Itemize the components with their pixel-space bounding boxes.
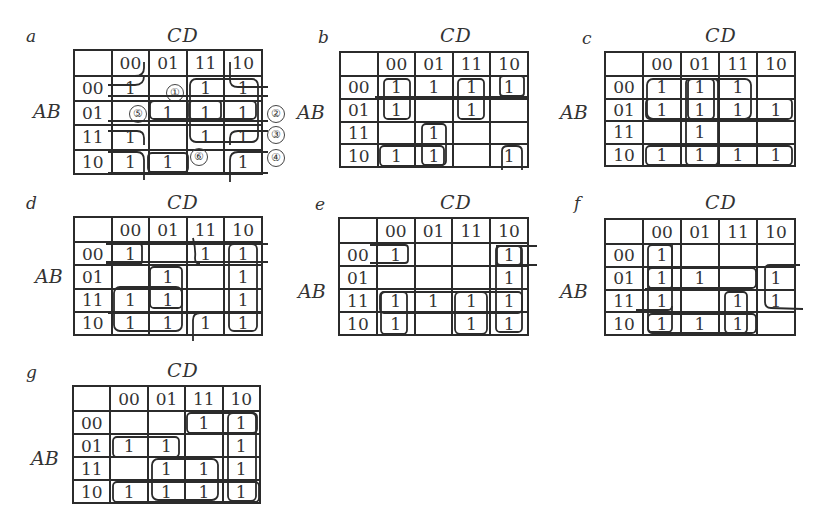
cell (452, 243, 490, 266)
cell: 1 (148, 457, 185, 480)
column-header: 10 (490, 52, 528, 76)
row-header: 00 (605, 244, 643, 267)
corner-cell (339, 218, 377, 243)
cell: 1 (681, 144, 719, 167)
cell: 1 (185, 480, 222, 503)
cell: 1 (224, 101, 262, 126)
cell: 1 (224, 242, 262, 265)
cell (187, 265, 225, 288)
cell: 1 (415, 289, 453, 312)
circled-marker: ⑤ (129, 105, 147, 123)
cell: 1 (112, 125, 150, 150)
cell (110, 411, 147, 434)
cell (757, 312, 795, 335)
cell (185, 434, 222, 457)
row-variable-label: AB (298, 280, 326, 302)
column-variable-label: CD (167, 359, 199, 381)
cell (490, 122, 528, 145)
row-variable-label: AB (297, 101, 325, 123)
column-variable-label: CD (440, 24, 472, 46)
cell (453, 122, 491, 145)
cell: 1 (490, 289, 528, 312)
column-header: 00 (110, 386, 147, 411)
cell (757, 244, 795, 267)
cell: 1 (490, 243, 528, 266)
column-header: 11 (453, 52, 491, 76)
cell: 1 (681, 267, 719, 290)
cell: 1 (223, 411, 260, 434)
column-header: 00 (643, 219, 681, 244)
circled-marker: ② (267, 105, 285, 123)
kmap-grid: 00 01 11 10 00 1 1 1 01 1 1 1 11 1 1 1 1… (73, 49, 263, 175)
cell (490, 99, 528, 122)
cell: 1 (490, 312, 528, 335)
column-header: 10 (224, 50, 262, 76)
column-header: 00 (377, 218, 415, 243)
cell: 1 (719, 144, 757, 167)
cell: 1 (377, 312, 415, 335)
column-header: 00 (112, 217, 150, 242)
panel-label: f (574, 193, 580, 213)
panel-label: d (26, 193, 37, 213)
cell (681, 244, 719, 267)
column-variable-label: CD (705, 191, 737, 213)
cell (719, 267, 757, 290)
cell: 1 (224, 76, 262, 101)
column-header: 01 (415, 218, 453, 243)
circled-marker: ① (166, 84, 184, 102)
cell: 1 (149, 312, 187, 335)
cell: 1 (643, 312, 681, 335)
row-header: 01 (74, 265, 112, 288)
row-variable-label: AB (35, 265, 63, 287)
cell: 1 (223, 457, 260, 480)
column-variable-label: CD (705, 24, 737, 46)
cell (187, 289, 225, 312)
cell: 1 (112, 76, 150, 101)
cell: 1 (112, 242, 150, 265)
column-header: 01 (681, 219, 719, 244)
column-header: 01 (415, 52, 453, 76)
row-header: 00 (340, 76, 378, 99)
cell: 1 (490, 144, 528, 167)
cell: 1 (223, 434, 260, 457)
cell: 1 (757, 99, 795, 122)
cell: 1 (643, 267, 681, 290)
circled-marker: ③ (267, 126, 285, 144)
cell: 1 (223, 480, 260, 503)
row-header: 01 (340, 99, 378, 122)
cell: 1 (757, 290, 795, 313)
cell: 1 (110, 434, 147, 457)
cell: 1 (643, 244, 681, 267)
cell: 1 (681, 121, 719, 144)
row-header: 01 (339, 266, 377, 289)
column-header: 11 (187, 217, 225, 242)
cell: 1 (378, 99, 416, 122)
cell: 1 (187, 76, 225, 101)
row-header: 11 (339, 289, 377, 312)
column-header: 11 (187, 50, 225, 76)
cell (378, 122, 416, 145)
cell (415, 99, 453, 122)
cell (377, 266, 415, 289)
cell: 1 (149, 150, 187, 175)
cell: 1 (112, 150, 150, 175)
row-header: 11 (74, 125, 112, 150)
cell (719, 121, 757, 144)
row-header: 01 (73, 434, 110, 457)
cell: 1 (643, 144, 681, 167)
row-header: 11 (74, 289, 112, 312)
cell: 1 (643, 290, 681, 313)
column-header: 10 (224, 217, 262, 242)
row-header: 01 (74, 101, 112, 126)
row-header: 00 (74, 76, 112, 101)
corner-cell (74, 217, 112, 242)
cell (112, 265, 150, 288)
cell: 1 (187, 312, 225, 335)
cell (110, 457, 147, 480)
cell (149, 242, 187, 265)
row-header: 10 (73, 480, 110, 503)
cell: 1 (415, 144, 453, 167)
corner-cell (605, 219, 643, 244)
column-header: 11 (452, 218, 490, 243)
cell: 1 (490, 76, 528, 99)
